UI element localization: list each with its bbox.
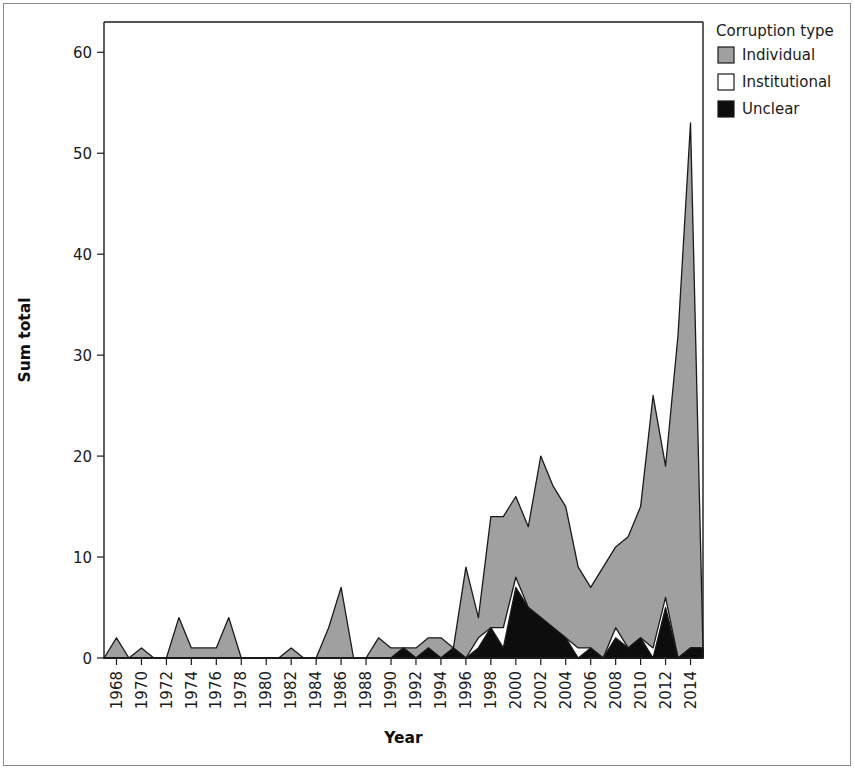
y-tick-label: 40 bbox=[73, 246, 92, 264]
x-tick-label: 1984 bbox=[307, 671, 325, 709]
x-tick-label: 2014 bbox=[682, 671, 700, 709]
x-tick-label: 1974 bbox=[183, 671, 201, 709]
y-tick-label: 60 bbox=[73, 44, 92, 62]
x-tick-label: 1986 bbox=[332, 671, 350, 709]
stacked-area-chart: 0102030405060196819701972197419761978198… bbox=[0, 0, 854, 769]
x-tick-label: 2004 bbox=[557, 671, 575, 709]
legend-title: Corruption type bbox=[716, 22, 834, 40]
y-tick-label: 30 bbox=[73, 347, 92, 365]
y-axis-title: Sum total bbox=[16, 298, 34, 383]
x-tick-label: 2008 bbox=[607, 671, 625, 709]
x-tick-label: 1976 bbox=[208, 671, 226, 709]
x-tick-label: 2010 bbox=[632, 671, 650, 709]
legend-swatch-institutional bbox=[718, 74, 734, 90]
x-tick-label: 1996 bbox=[457, 671, 475, 709]
y-tick-label: 50 bbox=[73, 145, 92, 163]
x-tick-label: 1968 bbox=[108, 671, 126, 709]
x-tick-label: 1990 bbox=[382, 671, 400, 709]
y-tick-label: 10 bbox=[73, 549, 92, 567]
x-tick-label: 1982 bbox=[282, 671, 300, 709]
x-tick-label: 2006 bbox=[582, 671, 600, 709]
legend-label-institutional: Institutional bbox=[742, 73, 831, 91]
y-tick-label: 0 bbox=[82, 650, 92, 668]
x-tick-label: 2012 bbox=[657, 671, 675, 709]
x-tick-label: 1970 bbox=[133, 671, 151, 709]
legend-swatch-unclear bbox=[718, 101, 734, 117]
legend-label-unclear: Unclear bbox=[742, 100, 800, 118]
x-tick-label: 1992 bbox=[407, 671, 425, 709]
x-tick-label: 1972 bbox=[158, 671, 176, 709]
x-tick-label: 1978 bbox=[232, 671, 250, 709]
y-tick-label: 20 bbox=[73, 448, 92, 466]
x-tick-label: 2002 bbox=[532, 671, 550, 709]
legend-label-individual: Individual bbox=[742, 46, 815, 64]
x-tick-label: 1998 bbox=[482, 671, 500, 709]
chart-figure: 0102030405060196819701972197419761978198… bbox=[0, 0, 854, 769]
x-tick-label: 1980 bbox=[257, 671, 275, 709]
x-tick-label: 2000 bbox=[507, 671, 525, 709]
legend-swatch-individual bbox=[718, 47, 734, 63]
x-tick-label: 1994 bbox=[432, 671, 450, 709]
x-tick-label: 1988 bbox=[357, 671, 375, 709]
x-axis-title: Year bbox=[383, 729, 423, 747]
